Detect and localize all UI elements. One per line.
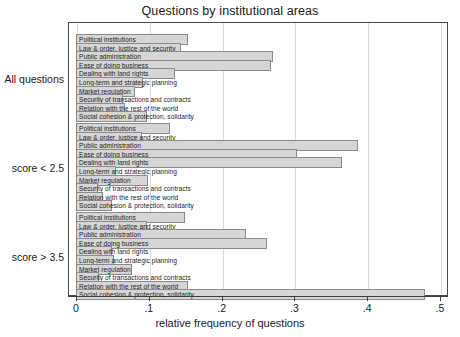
x-tick-mark-1 [149,296,150,301]
x-tick-mark-0 [76,296,77,301]
group-label-1: score < 2.5 [0,162,64,174]
chart-root: Questions by institutional areas Politic… [0,0,460,337]
x-axis-line [68,296,448,297]
bars-layer: Political institutionsLaw & order, justi… [68,22,448,296]
x-tick-label-5: .5 [436,302,445,314]
bar-category-label: Social cohesion & protection, solidarity [79,289,194,300]
chart-title: Questions by institutional areas [0,4,460,18]
x-tick-mark-2 [222,296,223,301]
group-label-0: All questions [0,73,64,85]
x-tick-label-2: .2 [217,302,226,314]
x-tick-mark-3 [294,296,295,301]
x-tick-label-3: .3 [290,302,299,314]
x-tick-label-1: .1 [144,302,153,314]
x-tick-mark-5 [440,296,441,301]
x-tick-label-4: .4 [363,302,372,314]
x-tick-label-0: 0 [73,302,79,314]
x-axis-title: relative frequency of questions [0,317,460,329]
group-label-2: score > 3.5 [0,251,64,263]
bar-category-label: Social cohesion & protection, solidarity [79,200,194,211]
bar-category-label: Social cohesion & protection, solidarity [79,111,194,122]
x-tick-mark-4 [367,296,368,301]
